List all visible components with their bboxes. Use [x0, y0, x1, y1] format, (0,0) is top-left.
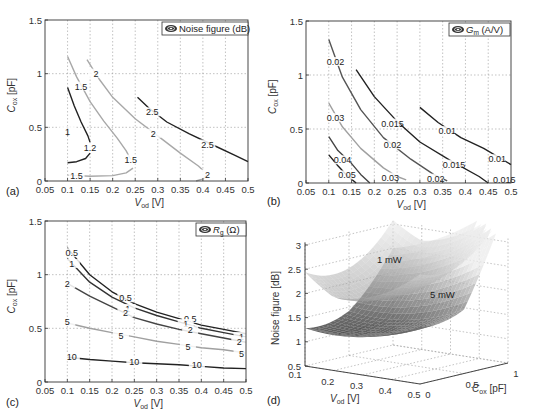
x-tick-label: 0.4 [196, 184, 209, 195]
x-axis-label: Vod [V] [134, 398, 164, 410]
contour-label: 10 [192, 360, 202, 370]
panel-label: (b) [267, 195, 280, 207]
contour-label: 0.04 [334, 155, 352, 165]
contour-label: 2 [93, 69, 98, 79]
legend: Noise figure (dB) [162, 22, 250, 35]
y-tick-label: 1.5 [29, 216, 42, 227]
contour-label: 1.2 [84, 143, 97, 153]
contour-label: 1 [65, 127, 70, 137]
y-axis-label: Cox [pF] [6, 78, 18, 113]
x-tick-label: 0.15 [342, 186, 361, 197]
contour-label: 1.5 [70, 171, 83, 181]
x-axis-label: Vod [V] [397, 199, 427, 211]
tick-labels: 0.050.10.150.20.250.30.350.40.450.500.51… [290, 16, 518, 198]
contour-label: 2.5 [201, 140, 214, 150]
x-tick-label: 0.3 [350, 380, 363, 391]
x-tick-label: 0.5 [239, 385, 252, 396]
contour-label: 1.5 [75, 82, 88, 92]
y-tick-label: 1.5 [290, 16, 303, 27]
legend: Gm (A/V) [449, 23, 510, 36]
panel-b-gm-contour: 0.050.040.030.030.020.020.020.0150.0150.… [267, 16, 518, 212]
contour-label: 0.05 [338, 170, 356, 180]
contour-lines: 11.21.51.51.52222.52.5 [60, 57, 248, 182]
y-tick-label: 1.5 [29, 15, 42, 26]
contour-label: 0.015 [381, 119, 404, 129]
contour-label: 0.02 [427, 174, 445, 184]
axes-frame [45, 20, 248, 181]
surfaces [305, 220, 496, 337]
surface-label-5mw: 5 mW [430, 289, 455, 300]
contour-label: 0.01 [489, 154, 507, 164]
x-axis-label: Vod [V] [135, 197, 165, 209]
x-tick-label: 0.2 [105, 385, 118, 396]
x-axis-label: Vod [V] [330, 393, 360, 405]
x-tick-label: 0.25 [388, 186, 407, 197]
legend-label: Gm (A/V) [466, 24, 503, 36]
contour-label: 2 [65, 279, 70, 289]
panel-label: (d) [267, 394, 280, 406]
contour-label: 2 [237, 337, 242, 347]
panel-c-rg-contour: 0.50.50.51111222255551010100.050.10.150.… [6, 216, 253, 411]
contour-label: 0.02 [327, 57, 345, 67]
x-tick-label: 0.5 [407, 389, 420, 400]
x-tick-label: 0.25 [125, 385, 144, 396]
contour-label: 0.01 [438, 126, 456, 136]
contour-label: 10 [129, 357, 139, 367]
x-tick-label: 0.3 [151, 184, 164, 195]
y-tick-label: 1 [37, 269, 42, 280]
panel-d-3d-surface: 0.511.522.530.10.20.30.40.500.51Vod [V]C… [267, 219, 519, 406]
panel-a-noise-figure-contour: 11.21.51.51.52222.52.50.050.10.150.20.25… [6, 15, 255, 210]
contour-label: 2 [123, 308, 128, 318]
z-tick-label: 1.5 [288, 312, 301, 323]
grid [45, 20, 248, 181]
contour-label: 0.03 [327, 113, 345, 123]
z-tick-label: 1 [296, 336, 301, 347]
x-tick-label: 0.3 [413, 186, 426, 197]
x-tick-label: 0.35 [433, 186, 452, 197]
x-tick-label: 0.2 [368, 186, 381, 197]
x-tick-label: 0.45 [479, 186, 498, 197]
x-tick-label: 0.5 [504, 186, 517, 197]
y-tick-label: 0 [37, 377, 42, 388]
x-tick-label: 0.35 [170, 385, 189, 396]
contour-label: 10 [67, 352, 77, 362]
contour-label: 0.015 [443, 160, 466, 170]
contour-label: 0.03 [382, 173, 400, 183]
legend-label: Noise figure (dB) [179, 23, 250, 34]
contour-label: 1.5 [124, 155, 137, 165]
y-tick-label: 1 [298, 70, 303, 81]
panel-label: (c) [6, 396, 19, 408]
x-tick-label: 0.5 [241, 184, 254, 195]
y-tick-label: 1 [513, 368, 518, 379]
tick-labels: 0.050.10.150.20.250.30.350.40.450.500.51… [29, 15, 255, 196]
x-tick-label: 0.3 [150, 385, 163, 396]
contour-label: 0.02 [384, 140, 402, 150]
x-tick-label: 0.2 [106, 184, 119, 195]
contour-label: 2.5 [146, 107, 159, 117]
z-tick-label: 2 [296, 288, 301, 299]
contour-label: 5 [118, 331, 123, 341]
y-tick-label: 0 [37, 176, 42, 187]
y-tick-label: 0.5 [29, 323, 42, 334]
x-tick-label: 0.4 [195, 385, 208, 396]
contour-label: 5 [185, 342, 190, 352]
contour-label: 5 [239, 349, 244, 359]
x-tick-label: 0.4 [459, 186, 472, 197]
y-tick-label: 0 [298, 178, 303, 189]
y-axis-label: Cox [pF] [472, 383, 507, 395]
x-tick-label: 0.45 [216, 184, 235, 195]
y-axis-label: Cox [pF] [267, 79, 279, 114]
x-tick-label: 0.1 [288, 369, 301, 380]
x-tick-label: 0.1 [322, 186, 335, 197]
contour-lines: 0.50.50.5111122225555101010 [59, 248, 249, 371]
contour-label: 1 [69, 259, 74, 269]
y-tick-label: 0.5 [29, 122, 42, 133]
y-tick-label: 1 [37, 68, 42, 79]
x-tick-label: 0.1 [61, 385, 74, 396]
z-axis-label: Noise figure [dB] [270, 271, 281, 345]
legend: Rg (Ω) [196, 223, 246, 237]
surface-label-1mw: 1 mW [377, 254, 402, 265]
contour-1.2 [68, 153, 91, 163]
y-tick-label: 0.5 [290, 124, 303, 135]
x-tick-label: 0.15 [80, 385, 99, 396]
